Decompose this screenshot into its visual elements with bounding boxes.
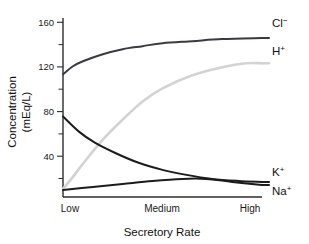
x-tick-label-low: Low xyxy=(61,203,80,214)
series-label-h-charge: + xyxy=(280,44,285,53)
y-axis-title-line1: Concentration xyxy=(6,76,18,148)
chart-svg: Concentration (mEq/L) 160 120 80 40 Low … xyxy=(0,0,309,244)
y-tick-label-40: 40 xyxy=(43,151,54,162)
series-label-k: K+ xyxy=(272,165,285,178)
y-axis-title-line2: (mEq/L) xyxy=(20,91,32,132)
series-label-cl-text: Cl xyxy=(272,17,283,29)
curve-k xyxy=(63,117,262,182)
x-axis-title: Secretory Rate xyxy=(124,226,201,238)
curve-cl xyxy=(63,38,262,74)
x-tick-label-high: High xyxy=(240,203,261,214)
chart-figure: Concentration (mEq/L) 160 120 80 40 Low … xyxy=(0,0,309,244)
series-label-h: H+ xyxy=(272,44,285,57)
y-tick-label-80: 80 xyxy=(43,106,54,117)
series-label-cl-charge: − xyxy=(283,16,288,25)
series-label-cl: Cl− xyxy=(272,16,288,29)
series-label-h-text: H xyxy=(272,45,280,57)
y-tick-label-120: 120 xyxy=(38,61,54,72)
series-label-na: Na+ xyxy=(272,184,292,197)
series-label-k-charge: + xyxy=(280,165,285,174)
y-axis-tick-labels: 160 120 80 40 xyxy=(38,17,54,162)
series-label-na-charge: + xyxy=(287,184,292,193)
x-tick-label-medium: Medium xyxy=(144,203,180,214)
series-annotations: Cl− H+ K+ Na+ xyxy=(272,16,292,197)
y-axis-title: Concentration (mEq/L) xyxy=(6,76,32,148)
series-label-na-text: Na xyxy=(272,185,287,197)
y-axis-ticks xyxy=(57,22,63,178)
x-axis-tick-labels: Low Medium High xyxy=(61,203,260,214)
y-tick-label-160: 160 xyxy=(38,17,54,28)
data-curves xyxy=(63,38,269,190)
